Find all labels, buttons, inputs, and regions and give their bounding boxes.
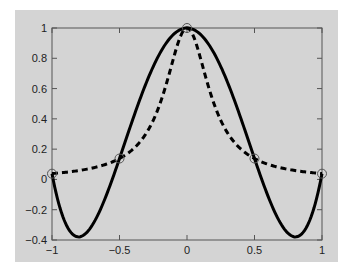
x-tick-label: −1 — [46, 244, 59, 256]
x-tick-label: −0.5 — [109, 244, 131, 256]
x-tick-label: 0 — [184, 244, 190, 256]
polynomial-curve — [52, 28, 322, 237]
y-tick-label: 0.6 — [32, 83, 47, 95]
y-tick-label: 0 — [41, 173, 47, 185]
y-tick-label: 0.2 — [32, 143, 47, 155]
chart-area: −1−0.500.51−0.4−0.200.20.40.60.81 — [0, 0, 352, 279]
y-tick-label: −0.4 — [25, 234, 47, 246]
x-tick-label: 0.5 — [247, 244, 262, 256]
runge-function-curve — [52, 28, 322, 174]
y-tick-label: 0.4 — [32, 113, 47, 125]
y-tick-label: 1 — [41, 22, 47, 34]
plot-frame — [52, 28, 322, 240]
y-tick-label: 0.8 — [32, 52, 47, 64]
y-tick-label: −0.2 — [25, 204, 47, 216]
node-markers — [48, 24, 327, 179]
x-tick-label: 1 — [319, 244, 325, 256]
plot-lines — [52, 28, 322, 237]
